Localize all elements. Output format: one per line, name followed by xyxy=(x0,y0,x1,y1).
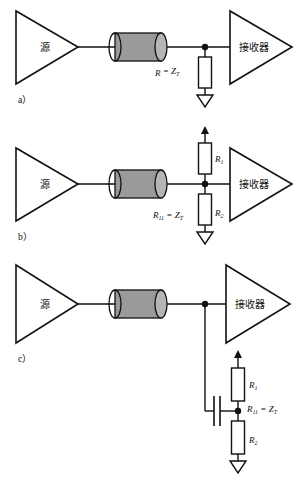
termination-equation: R11 = ZT xyxy=(246,404,278,415)
resistor-r2 xyxy=(199,194,212,225)
cable-body xyxy=(115,33,161,61)
receiver-label: 接收器 xyxy=(235,298,265,310)
resistor-r2 xyxy=(232,421,245,454)
resistor-r1 xyxy=(199,143,212,174)
panel-a-id: a） xyxy=(18,94,32,105)
cable-body xyxy=(115,290,161,318)
receiver-label: 接收器 xyxy=(239,41,269,53)
r2-sub: 2 xyxy=(255,440,258,446)
r2-sub: 2 xyxy=(221,213,224,219)
source-label: 源 xyxy=(40,41,50,53)
panel-c-id: c） xyxy=(18,353,32,364)
panel-c-transmission-line xyxy=(109,290,167,318)
receiver-label: 接收器 xyxy=(239,178,269,190)
r1-sub: 1 xyxy=(221,159,224,165)
panel-b-transmission-line xyxy=(109,170,167,198)
panel-a-transmission-line xyxy=(109,33,167,61)
figure-canvas: 源 R = ZT 接收器 a） xyxy=(0,0,300,487)
source-label: 源 xyxy=(40,298,50,310)
divider-node xyxy=(235,408,241,414)
resistor-r1 xyxy=(232,368,245,401)
panel-b-id: b） xyxy=(18,231,33,242)
cable-end-cap xyxy=(155,33,167,61)
cable-end-cap xyxy=(155,170,167,198)
resistor-r xyxy=(199,57,212,88)
termination-eq-prefix: = Z xyxy=(161,66,178,76)
junction-node xyxy=(202,181,208,187)
cable-body xyxy=(115,170,161,198)
termination-equation: R11 = ZT xyxy=(152,210,184,221)
termination-eq-prefix: = Z xyxy=(164,210,181,220)
source-label: 源 xyxy=(40,178,50,190)
cable-end-cap xyxy=(155,290,167,318)
termination-eq-prefix: = Z xyxy=(258,404,275,414)
termination-schemes-diagram: 源 R = ZT 接收器 a） xyxy=(0,0,300,487)
r1-sub: 1 xyxy=(255,385,258,391)
